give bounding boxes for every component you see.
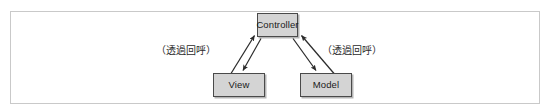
node-view: View	[213, 73, 265, 97]
node-controller-label: Controller	[256, 20, 298, 30]
edge-view-to-controller	[231, 36, 255, 74]
edge-label-right: （透過回呼）	[322, 46, 382, 56]
node-model-label: Model	[313, 80, 339, 90]
edge-controller-to-view	[243, 39, 261, 71]
node-view-label: View	[229, 80, 250, 90]
edge-label-left: （透過回呼）	[156, 46, 216, 56]
figure-root: Controller View Model （透過回呼） （透過回呼）	[0, 0, 551, 112]
edge-controller-to-model	[293, 39, 316, 71]
node-controller: Controller	[257, 13, 298, 37]
node-model: Model	[300, 73, 352, 97]
